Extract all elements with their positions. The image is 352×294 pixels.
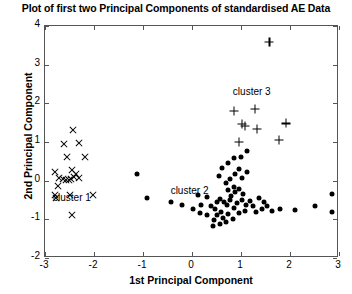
y-tick-label: 2 <box>18 95 40 106</box>
data-point <box>231 216 236 221</box>
data-point <box>217 174 222 179</box>
data-point <box>330 191 335 196</box>
data-point <box>232 205 237 210</box>
y-tick <box>45 219 49 220</box>
data-point <box>270 208 275 213</box>
y-tick <box>333 142 337 143</box>
data-point <box>75 138 84 147</box>
x-tick-label: 0 <box>176 259 206 270</box>
data-point <box>190 207 195 212</box>
y-tick <box>333 103 337 104</box>
y-tick-label: 0 <box>18 173 40 184</box>
data-point <box>252 124 261 133</box>
data-point <box>265 38 274 47</box>
cluster-label: cluster 1 <box>53 191 91 202</box>
data-point <box>278 207 283 212</box>
x-tick-label: -1 <box>127 259 157 270</box>
data-point <box>240 191 245 196</box>
y-tick-label: -2 <box>18 250 40 261</box>
y-tick <box>45 103 49 104</box>
y-tick <box>45 142 49 143</box>
x-tick <box>192 26 193 30</box>
data-point <box>261 199 266 204</box>
y-tick <box>333 181 337 182</box>
data-point <box>233 172 238 177</box>
data-point <box>330 209 335 214</box>
data-point <box>210 224 215 229</box>
data-point <box>232 156 237 161</box>
y-tick <box>333 219 337 220</box>
data-point <box>235 138 244 147</box>
data-point <box>204 212 209 217</box>
x-tick-label: 2 <box>274 259 304 270</box>
data-point <box>247 198 252 203</box>
x-tick <box>143 252 144 256</box>
data-point <box>63 152 72 161</box>
data-point <box>222 200 227 205</box>
cluster-label: cluster 3 <box>233 85 271 96</box>
chart-root: Plot of first two Principal Components o… <box>0 0 352 294</box>
y-tick-label: 1 <box>18 134 40 145</box>
x-tick <box>192 252 193 256</box>
y-tick <box>333 258 337 259</box>
data-point <box>250 104 259 113</box>
x-tick <box>339 26 340 30</box>
data-point <box>169 200 174 205</box>
data-point <box>259 206 264 211</box>
data-point <box>198 202 203 207</box>
data-point <box>275 135 284 144</box>
data-point <box>226 211 231 216</box>
plot-area: cluster 1cluster 2cluster 3 <box>44 25 338 257</box>
data-point <box>224 180 229 185</box>
data-point <box>211 218 216 223</box>
data-point <box>75 173 84 182</box>
y-tick-label: -1 <box>18 211 40 222</box>
data-point <box>224 219 229 224</box>
data-point <box>240 121 249 130</box>
data-point <box>69 126 78 135</box>
x-tick <box>241 26 242 30</box>
cluster-label: cluster 2 <box>171 184 209 195</box>
y-tick <box>45 181 49 182</box>
data-point <box>59 139 68 148</box>
y-tick-label: 4 <box>18 18 40 29</box>
y-tick-label: 3 <box>18 57 40 68</box>
x-tick <box>241 252 242 256</box>
x-tick-label: 3 <box>323 259 352 270</box>
data-point <box>218 221 223 226</box>
data-point <box>180 203 185 208</box>
data-point <box>68 210 77 219</box>
data-point <box>212 207 217 212</box>
data-point <box>197 211 202 216</box>
y-tick <box>45 258 49 259</box>
x-tick-label: 1 <box>225 259 255 270</box>
data-point <box>226 187 231 192</box>
data-point <box>230 107 239 116</box>
x-tick <box>339 252 340 256</box>
x-tick-label: -2 <box>78 259 108 270</box>
data-point <box>256 195 261 200</box>
x-tick <box>94 252 95 256</box>
data-point <box>250 204 255 209</box>
data-point <box>253 209 258 214</box>
data-point <box>237 167 242 172</box>
chart-title: Plot of first two Principal Components o… <box>0 2 352 14</box>
x-tick <box>45 252 46 256</box>
y-tick <box>333 65 337 66</box>
y-tick <box>333 26 337 27</box>
data-point <box>220 166 225 171</box>
data-point <box>244 170 249 175</box>
y-tick <box>45 26 49 27</box>
x-tick <box>290 26 291 30</box>
data-point <box>239 175 244 180</box>
data-point <box>235 201 240 206</box>
x-tick <box>94 26 95 30</box>
x-tick <box>290 252 291 256</box>
x-axis-title: 1st Principal Component <box>44 274 338 286</box>
data-point <box>244 149 249 154</box>
data-point <box>144 195 149 200</box>
data-point <box>282 119 291 128</box>
data-point <box>265 204 270 209</box>
data-point <box>135 171 140 176</box>
data-point <box>292 208 297 213</box>
